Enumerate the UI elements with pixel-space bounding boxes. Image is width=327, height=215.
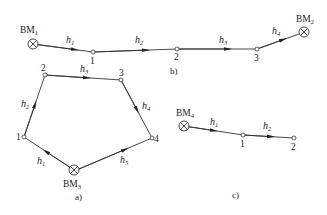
h1-label: h1: [66, 34, 74, 46]
caption-c: c): [232, 190, 239, 200]
bm2-label: BM2: [296, 14, 314, 25]
point-b-3-label: 3: [254, 53, 259, 63]
panel-a-closed-route: BM3 1 2 3 4 h1 h2 h3 h4 h5 a): [16, 63, 159, 202]
arrow-icon: [93, 50, 146, 52]
point-a-3: [119, 78, 123, 82]
caption-b: b): [170, 66, 178, 76]
h4-label: h4: [272, 25, 281, 37]
leveling-routes-diagram: BM1 BM2 1 2 3 h1 h2 h3 h4 b): [0, 0, 327, 215]
point-b-1-label: 1: [90, 56, 95, 66]
point-c-2: [292, 136, 296, 140]
caption-a: a): [75, 192, 82, 202]
bm3-label: BM3: [63, 179, 81, 190]
arrow-icon: [79, 150, 125, 170]
benchmark-bm1-icon: [28, 39, 38, 49]
point-a-2: [43, 73, 47, 77]
h2-label: h2: [263, 120, 272, 132]
point-c-1: [241, 133, 245, 137]
point-b-2: [175, 47, 179, 51]
h3-label: h3: [80, 63, 89, 75]
arrow-icon: [121, 80, 137, 110]
point-a-1: [22, 135, 26, 139]
point-b-2-label: 2: [174, 52, 179, 62]
point-a-1-label: 1: [16, 132, 21, 142]
bm1-label: BM1: [20, 25, 38, 36]
h2-label: h2: [135, 34, 144, 46]
h3-label: h3: [219, 34, 228, 46]
point-a-2-label: 2: [41, 63, 46, 73]
h5-label: h5: [120, 154, 129, 166]
arrow-icon: [45, 75, 87, 78]
h2-label: h2: [21, 98, 30, 110]
panel-c-spur-route: BM4 1 2 h1 h2 c): [176, 108, 296, 200]
h4-label: h4: [142, 100, 151, 112]
bm4-label: BM4: [176, 108, 195, 119]
point-b-3: [255, 47, 259, 51]
h1-label: h1: [37, 155, 45, 167]
point-c-2-label: 2: [291, 142, 296, 152]
arrow-icon: [243, 135, 271, 137]
point-b-1: [91, 50, 95, 54]
point-c-1-label: 1: [240, 139, 245, 149]
h1-label: h1: [210, 116, 218, 128]
arrow-icon: [257, 40, 283, 49]
panel-b-attached-route: BM1 BM2 1 2 3 h1 h2 h3 h4 b): [20, 14, 314, 76]
benchmark-bm3-icon: [69, 165, 79, 175]
point-a-4-label: 4: [154, 134, 159, 144]
point-a-3-label: 3: [119, 68, 124, 78]
benchmark-bm2-icon: [299, 27, 309, 37]
benchmark-bm4-icon: [179, 121, 189, 131]
